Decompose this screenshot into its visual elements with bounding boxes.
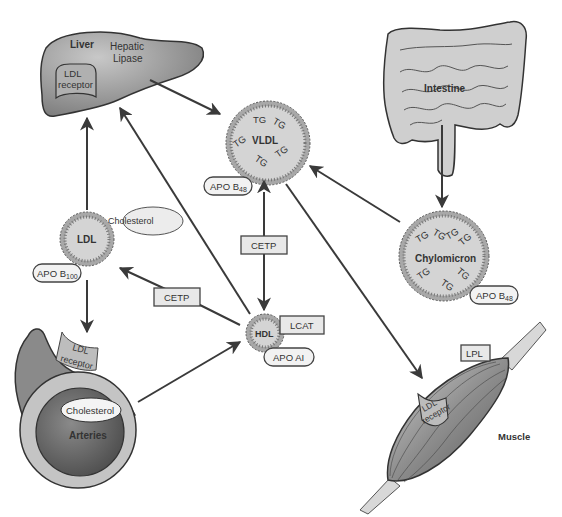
liver-ldl-receptor-label-2: receptor xyxy=(58,79,93,90)
intestine-label: Intestine xyxy=(424,83,466,94)
ldl-particle: Cholesterol LDL APO B100 xyxy=(33,207,183,282)
muscle-belly xyxy=(387,358,508,481)
muscle-label: Muscle xyxy=(498,431,530,442)
arteries: Cholesterol Arteries LDL receptor xyxy=(15,329,136,488)
ldl-label: LDL xyxy=(77,234,96,245)
chylomicron-label: Chylomicron xyxy=(415,253,476,264)
lpl-label: LPL xyxy=(466,348,483,359)
arrow-chylomicron-to-vldl xyxy=(310,166,400,222)
chylomicron-particle: TG TG TG TG TG TG TG Chylomicron APO B48 xyxy=(399,211,518,304)
hdl-apo-label: APO AI xyxy=(273,352,304,363)
hepatic-lipase-label-2: Lipase xyxy=(113,53,143,64)
muscle: LDL receptor LPL Muscle xyxy=(360,322,546,514)
intestine: Intestine xyxy=(384,22,526,177)
cetp-diagonal: CETP xyxy=(154,288,200,306)
vldl-particle: TG TG TG TG TG VLDL APO B48 xyxy=(204,101,310,195)
vldl-label: VLDL xyxy=(252,135,278,146)
liver-label: Liver xyxy=(70,39,94,50)
vldl-tg-1: TG xyxy=(253,114,266,125)
hepatic-lipase-label-1: Hepatic xyxy=(110,41,144,52)
arteries-label: Arteries xyxy=(69,430,107,441)
lcat-label: LCAT xyxy=(290,320,314,331)
liver: Liver Hepatic Lipase LDL receptor xyxy=(41,32,204,116)
arrow-arteries-to-hdl xyxy=(138,342,240,402)
arrow-liver-to-vldl xyxy=(150,80,220,114)
cetp-vertical-label: CETP xyxy=(251,240,276,251)
muscle-tendon-bottom xyxy=(360,478,400,514)
hdl-particle: HDL LCAT APO AI xyxy=(246,314,324,366)
hdl-label: HDL xyxy=(255,329,274,339)
cetp-vertical: CETP xyxy=(241,236,287,254)
lipoprotein-pathway-diagram: Liver Hepatic Lipase LDL receptor Intest… xyxy=(0,0,562,517)
cetp-diagonal-label: CETP xyxy=(164,292,189,303)
ldl-cholesterol-label: Cholesterol xyxy=(108,216,154,226)
artery-cholesterol-label: Cholesterol xyxy=(66,405,114,416)
liver-ldl-receptor-label-1: LDL xyxy=(64,68,81,79)
